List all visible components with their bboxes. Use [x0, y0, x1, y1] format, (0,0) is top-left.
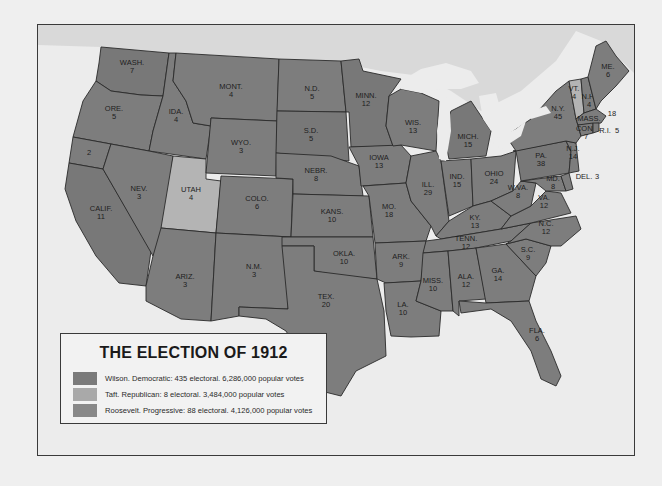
svg-text:9: 9 [526, 253, 530, 262]
state-colo: COLO. 6 [216, 176, 293, 237]
svg-text:10: 10 [328, 215, 336, 224]
state-ri: R.I. 5 [593, 123, 619, 135]
svg-text:3: 3 [183, 280, 187, 289]
svg-text:4: 4 [587, 100, 591, 109]
svg-text:15: 15 [453, 180, 461, 189]
svg-text:12: 12 [362, 99, 370, 108]
svg-text:13: 13 [409, 126, 417, 135]
legend-item-roosevelt: Roosevelt. Progressive: 88 electoral. 4,… [73, 403, 312, 417]
svg-text:6: 6 [255, 202, 259, 211]
svg-text:45: 45 [554, 112, 562, 121]
svg-text:3: 3 [595, 172, 599, 181]
state-del: DEL. 3 [561, 172, 599, 191]
svg-text:10: 10 [340, 257, 348, 266]
svg-text:3: 3 [239, 146, 243, 155]
svg-text:8: 8 [551, 182, 555, 191]
svg-text:3: 3 [252, 270, 256, 279]
svg-text:8: 8 [516, 191, 520, 200]
wilson-swatch [73, 372, 97, 385]
state-ark: ARK. 9 [375, 241, 426, 283]
svg-text:13: 13 [375, 161, 383, 170]
taft-swatch [73, 388, 97, 401]
state-wis: WIS. 13 [386, 89, 439, 151]
state-fla: FLA. 6 [459, 301, 561, 386]
svg-text:14: 14 [569, 152, 577, 161]
legend-label: Wilson. Democratic: 435 electoral. 6,286… [105, 374, 304, 383]
map-frame: WASH. 7 ORE. 5 2 CALIF. 11 IDA. 4 NEV. 3 [37, 24, 635, 456]
svg-text:12: 12 [462, 280, 470, 289]
svg-text:29: 29 [424, 188, 432, 197]
svg-text:4: 4 [189, 193, 193, 202]
svg-text:18: 18 [385, 210, 393, 219]
svg-text:15: 15 [464, 140, 472, 149]
legend-item-wilson: Wilson. Democratic: 435 electoral. 6,286… [73, 371, 304, 385]
svg-text:5: 5 [615, 126, 619, 135]
svg-text:9: 9 [399, 260, 403, 269]
svg-text:R.I.: R.I. [599, 126, 611, 135]
svg-text:4: 4 [229, 90, 233, 99]
svg-text:20: 20 [322, 300, 330, 309]
svg-text:10: 10 [429, 284, 437, 293]
svg-text:13: 13 [471, 221, 479, 230]
svg-text:4: 4 [572, 92, 576, 101]
legend-label: Roosevelt. Progressive: 88 electoral. 4,… [105, 406, 312, 415]
svg-text:MASS.: MASS. [577, 114, 600, 123]
svg-text:3: 3 [137, 192, 141, 201]
svg-text:DEL.: DEL. [576, 172, 593, 181]
legend-item-taft: Taft. Republican: 8 electoral. 3,484,000… [73, 387, 284, 401]
svg-text:5: 5 [310, 92, 314, 101]
state-nd: N.D. 5 [277, 59, 346, 112]
svg-text:4: 4 [174, 115, 178, 124]
legend: THE ELECTION OF 1912 Wilson. Democratic:… [60, 333, 327, 424]
legend-label: Taft. Republican: 8 electoral. 3,484,000… [105, 390, 284, 399]
state-wyo: WYO. 3 [206, 118, 277, 176]
svg-text:7: 7 [584, 132, 588, 141]
svg-text:2: 2 [87, 148, 91, 157]
svg-text:8: 8 [314, 174, 318, 183]
svg-text:11: 11 [97, 212, 105, 221]
svg-text:12: 12 [540, 201, 548, 210]
svg-text:12: 12 [542, 227, 550, 236]
svg-text:14: 14 [494, 274, 502, 283]
svg-text:5: 5 [309, 134, 313, 143]
svg-text:38: 38 [537, 159, 545, 168]
svg-text:6: 6 [606, 70, 610, 79]
svg-text:24: 24 [490, 177, 498, 186]
svg-text:7: 7 [130, 66, 134, 75]
state-kans: KANS. 10 [291, 194, 373, 237]
legend-title: THE ELECTION OF 1912 [61, 344, 326, 362]
svg-text:6: 6 [535, 334, 539, 343]
svg-text:18: 18 [608, 109, 616, 118]
svg-text:5: 5 [112, 112, 116, 121]
svg-text:10: 10 [399, 308, 407, 317]
roosevelt-swatch [73, 404, 97, 417]
